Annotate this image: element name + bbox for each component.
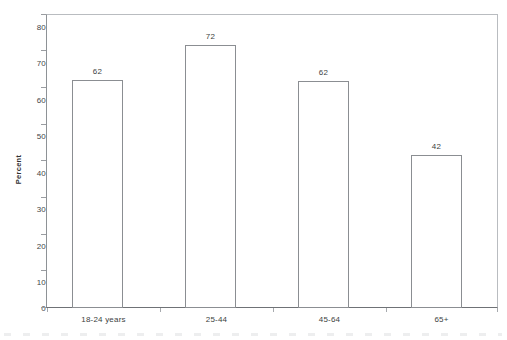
x-tick-mark-0 [47,308,48,312]
x-tick-mark-4 [497,308,498,312]
bar-chart: 80 70 60 50 40 30 20 10 0 Percent 62 72 … [0,0,507,340]
y-tick-label-70: 70 [24,60,46,68]
x-tick-mark-2 [273,308,274,312]
y-tick-label-80: 80 [24,24,46,32]
bar-18-24-years [72,80,123,308]
y-tick-label-60: 60 [24,97,46,105]
bar-label-18-24-years: 62 [72,68,123,76]
y-tick-mark-80 [41,14,46,15]
y-tick-label-20: 20 [24,243,46,251]
y-tick-mark-50 [41,124,46,125]
bar-45-64 [298,81,349,308]
y-tick-mark-0 [41,307,46,308]
bar-label-65-plus: 42 [411,143,462,151]
scan-artifact [4,333,502,336]
y-tick-mark-10 [41,270,46,271]
bar-65-plus [411,155,462,308]
x-tick-mark-3 [386,308,387,312]
y-tick-label-50: 50 [24,133,46,141]
x-tick-label-18-24-years: 18-24 years [47,315,160,324]
y-tick-label-10: 10 [24,279,46,287]
y-tick-label-30: 30 [24,206,46,214]
y-axis-title-text: Percent [14,139,23,201]
y-tick-mark-70 [41,50,46,51]
y-axis-title: Percent [13,138,23,200]
y-tick-mark-30 [41,197,46,198]
bar-label-45-64: 62 [298,69,349,77]
y-tick-mark-40 [41,160,46,161]
x-tick-label-65-plus: 65+ [386,315,497,324]
x-tick-label-25-44: 25-44 [160,315,273,324]
bar-label-25-44: 72 [185,33,236,41]
bar-25-44 [185,45,236,308]
y-tick-label-40: 40 [24,170,46,178]
y-tick-mark-20 [41,234,46,235]
x-tick-mark-1 [160,308,161,312]
x-tick-label-45-64: 45-64 [273,315,386,324]
y-tick-mark-60 [41,87,46,88]
